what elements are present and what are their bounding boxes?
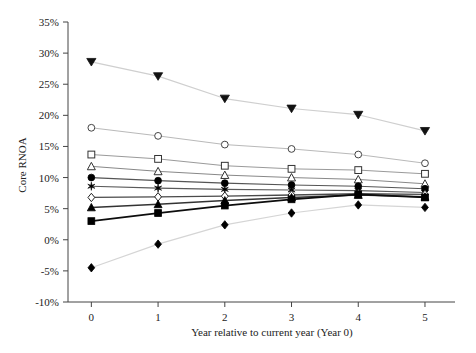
series-line [91, 155, 425, 174]
data-point-marker [88, 174, 95, 181]
data-point-marker [420, 127, 429, 135]
core-rnoa-line-chart: -10%-5%0%5%10%15%20%25%30%35% 012345 Cor… [0, 0, 476, 353]
chart-container: -10%-5%0%5%10%15%20%25%30%35% 012345 Cor… [0, 0, 476, 353]
series-line [91, 62, 425, 131]
data-point-marker [355, 151, 362, 158]
series-1 [87, 58, 430, 135]
data-point-marker [288, 165, 295, 172]
data-point-marker [88, 193, 95, 201]
data-point-marker [288, 209, 295, 217]
data-point-marker [221, 141, 228, 148]
series-2 [88, 124, 428, 166]
y-tick-label: 5% [44, 203, 59, 215]
x-axis-title: Year relative to current year (Year 0) [191, 326, 353, 339]
y-tick-label: -5% [41, 265, 59, 277]
y-tick-label: 30% [39, 47, 59, 59]
series-3 [88, 151, 428, 177]
y-tick-label: -10% [35, 296, 59, 308]
data-point-marker [288, 196, 295, 203]
y-tick-label: 20% [39, 109, 59, 121]
data-point-marker [87, 162, 95, 169]
data-point-marker [355, 201, 362, 209]
data-point-marker [88, 151, 95, 158]
data-point-marker [155, 177, 162, 184]
data-point-marker [221, 221, 228, 229]
data-point-marker [422, 170, 429, 177]
data-point-marker [155, 210, 162, 217]
x-tick-label: 4 [356, 311, 362, 323]
data-series-group [87, 58, 430, 272]
series-4 [87, 162, 429, 187]
x-tick-label: 2 [222, 311, 228, 323]
x-tick-label: 0 [89, 311, 95, 323]
data-point-marker [422, 203, 429, 211]
y-tick-label: 0% [44, 234, 59, 246]
data-point-marker [355, 167, 362, 174]
data-point-marker [153, 73, 162, 81]
y-tick-label: 25% [39, 78, 59, 90]
data-point-marker [355, 191, 362, 198]
y-axis-title: Core RNOA [16, 137, 28, 192]
x-tick-label: 1 [155, 311, 161, 323]
y-axis: -10%-5%0%5%10%15%20%25%30%35% [35, 16, 68, 308]
y-tick-label: 35% [39, 16, 59, 28]
data-point-marker [155, 132, 162, 139]
x-axis: 012345 [68, 302, 455, 323]
data-point-marker [88, 124, 95, 131]
data-point-marker [155, 240, 162, 248]
y-tick-label: 15% [39, 140, 59, 152]
data-point-marker [422, 194, 429, 201]
data-point-marker [88, 218, 95, 225]
data-point-marker [422, 160, 429, 167]
data-point-marker [88, 264, 95, 272]
series-line [91, 166, 425, 183]
data-point-marker [155, 155, 162, 162]
data-point-marker [221, 202, 228, 209]
x-tick-label: 3 [289, 311, 295, 323]
data-point-marker [221, 162, 228, 169]
series-10 [88, 201, 428, 272]
x-tick-label: 5 [422, 311, 428, 323]
data-point-marker [288, 146, 295, 153]
y-tick-label: 10% [39, 172, 59, 184]
